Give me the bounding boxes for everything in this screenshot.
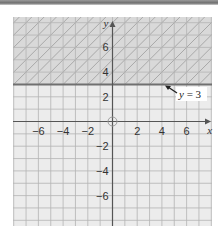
x-tick-label: 2 [134,125,140,137]
x-tick-label: 6 [184,125,190,137]
y-tick-label: 2 [102,91,108,103]
y-tick-label: −2 [96,140,109,152]
y-tick-label: 6 [102,41,108,53]
y-tick-label: −4 [96,165,109,177]
x-axis-label: x [206,124,212,136]
y-tick-label: 4 [102,66,108,78]
coordinate-graph: xy−6−4−2246642−2−4−6y = 3 [0,0,218,238]
y-tick-label: −6 [96,190,109,202]
y-axis-label: y [103,17,109,29]
x-tick-label: −6 [32,125,45,137]
annotation-label: y = 3 [178,88,202,100]
x-tick-label: −2 [82,125,95,137]
x-tick-label: −4 [57,125,70,137]
x-tick-label: 4 [159,125,165,137]
